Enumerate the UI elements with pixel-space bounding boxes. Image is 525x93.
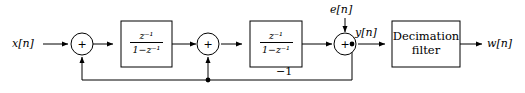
junction-dot-feedback	[206, 78, 211, 83]
integrator2-numerator: z⁻¹	[252, 30, 300, 42]
integrator1-numerator: z⁻¹	[123, 30, 170, 42]
input-signal-label: x[n]	[12, 38, 34, 49]
integrator1-transfer-function: z⁻¹ 1−z⁻¹	[123, 30, 170, 55]
feedback-gain-label: −1	[276, 66, 292, 77]
decimation-filter-line1: Decimation	[392, 30, 460, 44]
adder3-plus-sign: +	[338, 38, 352, 51]
decimation-filter-line2: filter	[392, 44, 460, 58]
modulator-output-label: y[n]	[355, 27, 377, 38]
output-signal-label: w[n]	[487, 38, 512, 49]
integrator2-denominator: 1−z⁻¹	[252, 43, 300, 55]
decimation-filter-label: Decimation filter	[392, 30, 460, 57]
adder2-plus-sign: +	[201, 38, 215, 51]
noise-signal-label: e[n]	[330, 4, 352, 15]
integrator2-transfer-function: z⁻¹ 1−z⁻¹	[252, 30, 300, 55]
adder1-plus-sign: +	[75, 38, 89, 51]
block-diagram: x[n] + + + z⁻¹ 1−z⁻¹ z⁻¹ 1−z⁻¹ e[n] y[n]…	[0, 0, 525, 93]
integrator1-denominator: 1−z⁻¹	[123, 43, 170, 55]
